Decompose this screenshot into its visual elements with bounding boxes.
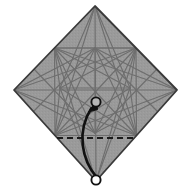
reference-point-bottom-marker — [91, 175, 100, 184]
origami-figure-svg — [0, 0, 184, 196]
crease-inner-right — [136, 48, 137, 136]
reference-point-center-marker — [91, 97, 100, 106]
origami-diagram: Grey square origami paper rotated as a d… — [0, 0, 184, 196]
